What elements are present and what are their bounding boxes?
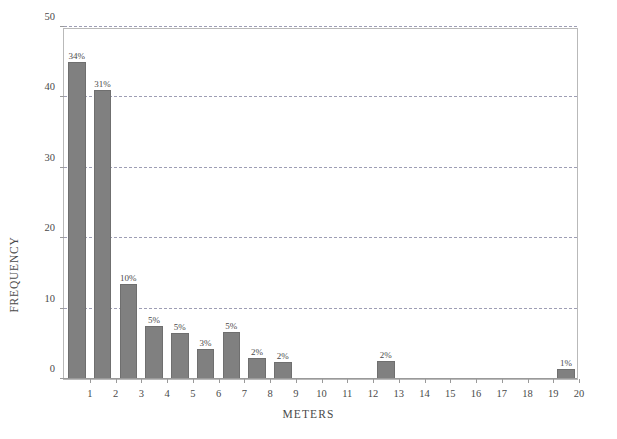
- x-tick-mark: [399, 379, 400, 383]
- x-tick-label: 19: [548, 388, 559, 399]
- x-tick-label: 18: [522, 388, 533, 399]
- histogram-bar: 2%: [274, 362, 292, 379]
- y-tick-label: 40: [45, 81, 56, 92]
- x-tick-label: 15: [445, 388, 456, 399]
- bar-value-label: 10%: [120, 273, 137, 283]
- y-tick-mark: [60, 96, 64, 97]
- x-axis-title: METERS: [0, 408, 617, 420]
- histogram-bar: 2%: [248, 358, 266, 379]
- y-tick-label: 20: [45, 222, 56, 233]
- x-tick-label: 17: [497, 388, 508, 399]
- bar-value-label: 31%: [94, 79, 111, 89]
- x-tick-mark: [553, 379, 554, 383]
- y-tick-label: 0: [50, 363, 55, 374]
- x-tick-mark: [347, 379, 348, 383]
- x-tick-label: 10: [316, 388, 327, 399]
- x-tick-label: 9: [293, 388, 298, 399]
- histogram-bar: 3%: [197, 349, 215, 379]
- x-tick-mark: [528, 379, 529, 383]
- x-tick-mark: [322, 379, 323, 383]
- bar-value-label: 3%: [200, 338, 212, 348]
- x-tick-mark: [296, 379, 297, 383]
- x-tick-label: 12: [368, 388, 379, 399]
- gridline: [64, 96, 577, 97]
- x-tick-label: 11: [342, 388, 352, 399]
- x-tick-mark: [219, 379, 220, 383]
- x-tick-mark: [244, 379, 245, 383]
- gridline: [64, 26, 577, 27]
- x-tick-mark: [141, 379, 142, 383]
- bar-value-label: 5%: [225, 321, 237, 331]
- bar-value-label: 2%: [380, 350, 392, 360]
- x-tick-label: 16: [471, 388, 482, 399]
- bar-value-label: 1%: [560, 358, 572, 368]
- x-tick-label: 5: [190, 388, 195, 399]
- x-tick-label: 7: [242, 388, 247, 399]
- histogram-bar: 31%: [94, 90, 112, 379]
- y-tick-label: 10: [45, 292, 56, 303]
- bar-value-label: 5%: [174, 322, 186, 332]
- bar-value-label: 5%: [148, 315, 160, 325]
- histogram-bar: 2%: [377, 361, 395, 379]
- gridline: [64, 237, 577, 238]
- y-tick-mark: [60, 26, 64, 27]
- x-tick-label: 6: [216, 388, 221, 399]
- x-tick-label: 1: [87, 388, 92, 399]
- x-tick-label: 2: [113, 388, 118, 399]
- y-tick-mark: [60, 237, 64, 238]
- plot-area: 01020304050 1234567891011121314151617181…: [63, 28, 578, 380]
- x-tick-mark: [167, 379, 168, 383]
- bar-value-label: 2%: [277, 351, 289, 361]
- bar-value-label: 34%: [69, 51, 86, 61]
- gridline: [64, 308, 577, 309]
- y-axis-title: FREQUENCY: [0, 0, 28, 439]
- x-tick-mark: [270, 379, 271, 383]
- gridline: [64, 167, 577, 168]
- x-tick-mark: [373, 379, 374, 383]
- x-tick-mark: [90, 379, 91, 383]
- x-tick-mark: [502, 379, 503, 383]
- y-tick-mark: [60, 308, 64, 309]
- x-tick-mark: [116, 379, 117, 383]
- x-tick-label: 4: [164, 388, 169, 399]
- x-tick-mark: [476, 379, 477, 383]
- y-tick-label: 30: [45, 151, 56, 162]
- histogram-bar: 5%: [223, 332, 241, 379]
- histogram-bar: 10%: [120, 284, 138, 379]
- x-tick-label: 8: [267, 388, 272, 399]
- x-tick-mark: [425, 379, 426, 383]
- y-tick-label: 50: [45, 11, 56, 22]
- histogram-bar: 34%: [68, 62, 86, 379]
- histogram-figure: FREQUENCY 01020304050 123456789101112131…: [0, 0, 617, 439]
- axis-baseline: [64, 378, 577, 379]
- x-tick-mark: [450, 379, 451, 383]
- y-tick-mark: [60, 167, 64, 168]
- x-tick-label: 13: [394, 388, 405, 399]
- x-tick-label: 3: [139, 388, 144, 399]
- x-tick-mark: [579, 379, 580, 383]
- x-tick-mark: [193, 379, 194, 383]
- histogram-bar: 5%: [171, 333, 189, 379]
- y-axis-title-text: FREQUENCY: [8, 236, 20, 312]
- histogram-bar: 5%: [145, 326, 163, 379]
- bar-value-label: 2%: [251, 347, 263, 357]
- x-tick-label: 20: [574, 388, 585, 399]
- x-tick-label: 14: [419, 388, 430, 399]
